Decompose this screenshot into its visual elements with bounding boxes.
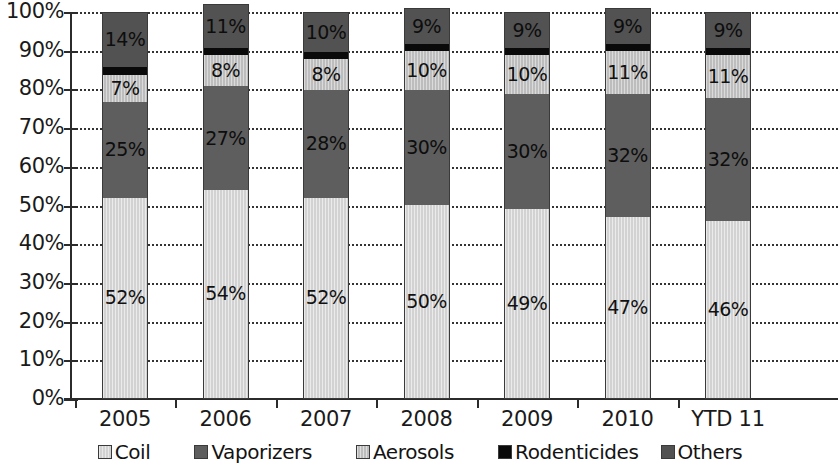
x-axis-tick-mark: [477, 400, 479, 408]
x-axis-tick-mark: [75, 400, 77, 408]
bar-segment-value-label: 11%: [708, 67, 749, 86]
legend-swatch-vaporizers-icon: [194, 445, 208, 459]
bar-segment-rodenticides[interactable]: [505, 48, 549, 56]
bar-2005[interactable]: 14%7%25%52%: [102, 12, 148, 399]
bar-segment-value-label: 54%: [205, 284, 246, 303]
y-axis: 100%90%80%70%60%50%40%30%20%10%0%: [0, 0, 64, 410]
y-axis-tick-mark: [64, 322, 78, 324]
bar-segment-rodenticides[interactable]: [405, 44, 449, 52]
legend-item-coil[interactable]: Coil: [98, 442, 151, 462]
bar-segment-aerosols[interactable]: 11%: [706, 55, 750, 97]
bar-segment-rodenticides[interactable]: [103, 67, 147, 75]
bar-segment-coil[interactable]: 50%: [405, 205, 449, 398]
bar-segment-vaporizers[interactable]: 32%: [606, 94, 650, 217]
bar-segment-vaporizers[interactable]: 27%: [204, 86, 248, 190]
bar-segment-value-label: 47%: [607, 298, 648, 317]
y-axis-tick-label: 40%: [0, 233, 64, 254]
x-axis-tick-mark: [678, 400, 680, 408]
bar-segment-value-label: 9%: [613, 17, 642, 36]
bar-segment-others[interactable]: 9%: [505, 13, 549, 48]
bar-segment-vaporizers[interactable]: 25%: [103, 102, 147, 198]
bar-segment-value-label: 9%: [412, 17, 441, 36]
bar-segment-vaporizers[interactable]: 30%: [505, 94, 549, 210]
stacked-bar-chart: 100%90%80%70%60%50%40%30%20%10%0% CoilVa…: [0, 0, 840, 466]
bar-segment-coil[interactable]: 54%: [204, 190, 248, 398]
bar-segment-rodenticides[interactable]: [204, 48, 248, 56]
y-axis-tick-label: 10%: [0, 349, 64, 370]
y-axis-tick-label: 100%: [0, 1, 64, 22]
legend-item-others[interactable]: Others: [661, 442, 743, 462]
bar-segment-rodenticides[interactable]: [606, 44, 650, 52]
bar-segment-others[interactable]: 10%: [304, 13, 348, 52]
bar-segment-value-label: 9%: [512, 21, 541, 40]
chart-legend: CoilVaporizersAerosolsRodenticidesOthers: [0, 437, 840, 466]
bar-segment-aerosols[interactable]: 10%: [405, 51, 449, 90]
bar-segment-rodenticides[interactable]: [706, 48, 750, 56]
legend-label: Others: [678, 442, 743, 462]
y-axis-tick-label: 60%: [0, 156, 64, 177]
bar-segment-others[interactable]: 11%: [204, 5, 248, 47]
legend-swatch-rodenticides-icon: [498, 445, 512, 459]
bar-segment-value-label: 30%: [406, 138, 447, 157]
bar-segment-value-label: 25%: [105, 140, 146, 159]
bar-segment-value-label: 49%: [507, 294, 548, 313]
y-axis-tick-mark: [64, 89, 78, 91]
bar-segment-others[interactable]: 9%: [706, 13, 750, 48]
bar-segment-value-label: 27%: [205, 129, 246, 148]
bar-segment-rodenticides[interactable]: [304, 52, 348, 60]
y-axis-tick-label: 50%: [0, 195, 64, 216]
bar-segment-aerosols[interactable]: 7%: [103, 75, 147, 102]
legend-swatch-coil-icon: [98, 445, 112, 459]
bar-2007[interactable]: 10%8%28%52%: [303, 12, 349, 399]
bar-2010[interactable]: 9%11%32%47%: [605, 8, 651, 399]
bar-segment-vaporizers[interactable]: 32%: [706, 98, 750, 221]
bar-segment-vaporizers[interactable]: 28%: [304, 90, 348, 198]
bar-segment-coil[interactable]: 49%: [505, 209, 549, 398]
y-axis-tick-mark: [64, 51, 78, 53]
bar-segment-coil[interactable]: 46%: [706, 221, 750, 398]
bar-segment-value-label: 50%: [406, 292, 447, 311]
bar-segment-value-label: 32%: [607, 146, 648, 165]
bar-ytd-11[interactable]: 9%11%32%46%: [705, 12, 751, 399]
bar-2006[interactable]: 11%8%27%54%: [203, 4, 249, 399]
legend-item-aerosols[interactable]: Aerosols: [356, 442, 454, 462]
legend-swatch-others-icon: [661, 445, 675, 459]
bar-segment-others[interactable]: 9%: [405, 9, 449, 44]
bar-segment-coil[interactable]: 52%: [304, 198, 348, 398]
bar-segment-value-label: 10%: [306, 23, 347, 42]
legend-label: Vaporizers: [211, 442, 312, 462]
bar-segment-value-label: 10%: [406, 61, 447, 80]
bar-segment-others[interactable]: 9%: [606, 9, 650, 44]
legend-label: Rodenticides: [515, 442, 638, 462]
y-axis-tick-label: 20%: [0, 311, 64, 332]
y-axis-tick-mark: [64, 206, 78, 208]
x-axis-tick-mark: [276, 400, 278, 408]
x-axis-tick-mark: [376, 400, 378, 408]
bar-segment-aerosols[interactable]: 11%: [606, 51, 650, 93]
bar-2009[interactable]: 9%10%30%49%: [504, 12, 550, 399]
bar-segment-value-label: 32%: [708, 150, 749, 169]
bar-segment-coil[interactable]: 52%: [103, 198, 147, 398]
y-axis-tick-label: 90%: [0, 40, 64, 61]
bar-segment-coil[interactable]: 47%: [606, 217, 650, 398]
bar-segment-others[interactable]: 14%: [103, 13, 147, 67]
bar-segment-value-label: 7%: [110, 79, 139, 98]
legend-label: Aerosols: [373, 442, 454, 462]
x-axis-tick-mark: [577, 400, 579, 408]
y-axis-tick-label: 0%: [0, 388, 64, 409]
bar-segment-value-label: 14%: [105, 30, 146, 49]
y-axis-tick-label: 80%: [0, 78, 64, 99]
bar-segment-value-label: 11%: [607, 63, 648, 82]
bar-segment-aerosols[interactable]: 8%: [304, 59, 348, 90]
bar-2008[interactable]: 9%10%30%50%: [404, 8, 450, 399]
bar-segment-aerosols[interactable]: 10%: [505, 55, 549, 94]
y-axis-tick-mark: [64, 12, 78, 14]
bar-segment-value-label: 46%: [708, 300, 749, 319]
bar-segment-value-label: 10%: [507, 65, 548, 84]
y-axis-tick-mark: [64, 167, 78, 169]
bar-segment-vaporizers[interactable]: 30%: [405, 90, 449, 206]
legend-item-vaporizers[interactable]: Vaporizers: [194, 442, 312, 462]
legend-item-rodenticides[interactable]: Rodenticides: [498, 442, 638, 462]
bar-segment-aerosols[interactable]: 8%: [204, 55, 248, 86]
x-axis-tick-label: YTD 11: [668, 408, 788, 430]
